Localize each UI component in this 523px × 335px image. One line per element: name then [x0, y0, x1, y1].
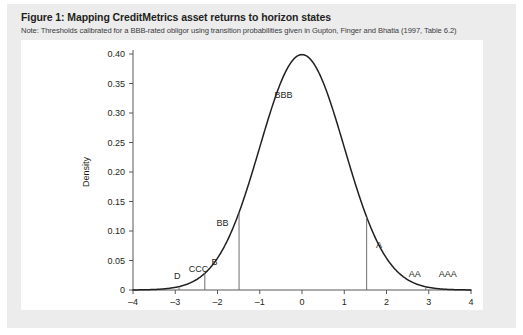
x-tick-label-3: –1 [255, 297, 265, 307]
density-chart: 00.050.100.150.200.250.300.350.40–4–3–2–… [21, 40, 483, 310]
x-tick-label-2: –2 [212, 297, 222, 307]
figure-card: Figure 1: Mapping CreditMetrics asset re… [7, 4, 516, 328]
y-tick-label-6: 0.30 [107, 108, 125, 118]
y-tick-label-3: 0.15 [107, 197, 125, 207]
x-tick-label-1: –3 [170, 297, 180, 307]
state-label-a: A [376, 240, 382, 250]
y-tick-label-4: 0.20 [107, 167, 125, 177]
state-label-bbb: BBB [274, 90, 292, 100]
figure-note: Note: Thresholds calibrated for a BBB-ra… [21, 26, 457, 35]
state-label-ccc: CCC [189, 264, 209, 274]
plot-panel: 00.050.100.150.200.250.300.350.40–4–3–2–… [21, 40, 483, 310]
state-label-bb: BB [217, 218, 229, 228]
page-title: Figure 1: Mapping CreditMetrics asset re… [21, 11, 331, 23]
y-tick-label-8: 0.40 [107, 49, 125, 59]
x-tick-label-5: 1 [342, 297, 347, 307]
x-tick-label-0: –4 [128, 297, 138, 307]
y-tick-label-2: 0.10 [107, 226, 125, 236]
state-label-d: D [174, 271, 181, 281]
y-tick-label-0: 0 [120, 285, 125, 295]
state-label-b: B [212, 257, 218, 267]
x-tick-label-4: 0 [299, 297, 304, 307]
y-tick-label-5: 0.25 [107, 138, 125, 148]
x-tick-label-8: 4 [468, 297, 473, 307]
y-tick-label-1: 0.05 [107, 256, 125, 266]
state-label-aaa: AAA [439, 269, 457, 279]
density-curve-path [133, 55, 471, 290]
x-tick-label-7: 3 [426, 297, 431, 307]
state-label-aa: AA [409, 269, 421, 279]
y-axis-title: Density [81, 156, 91, 187]
x-tick-label-6: 2 [384, 297, 389, 307]
y-tick-label-7: 0.35 [107, 79, 125, 89]
